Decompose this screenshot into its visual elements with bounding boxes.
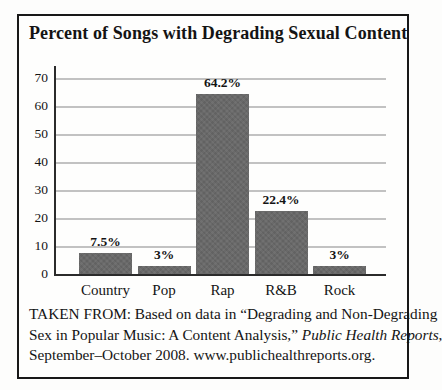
y-axis-tick-labels: 010203040506070	[19, 66, 48, 276]
figure-frame: Percent of Songs with Degrading Sexual C…	[17, 14, 409, 379]
source-note-italic-text: Public Health Reports	[302, 326, 439, 343]
bar	[79, 253, 132, 274]
source-note-text: September–October 2008. www.publichealth…	[29, 346, 375, 363]
bar	[138, 266, 191, 274]
bar-value-label: 22.4%	[262, 192, 299, 208]
category-label: Country	[81, 282, 130, 299]
bar-slot: 3%Pop	[137, 66, 191, 274]
category-label: R&B	[265, 282, 297, 299]
y-tick-label: 20	[19, 209, 48, 227]
y-tick-label: 40	[19, 153, 48, 171]
bar-slot: 3%Rock	[313, 66, 367, 274]
bar	[196, 94, 249, 274]
bar	[255, 211, 308, 274]
bar-value-label: 64.2%	[204, 75, 241, 91]
category-label: Pop	[152, 282, 175, 299]
bars-row: 7.5%Country3%Pop64.2%Rap22.4%R&B3%Rock	[56, 66, 386, 274]
source-note-line: Sex in Popular Music: A Content Analysis…	[29, 325, 405, 346]
source-note-text: Sex in Popular Music: A Content Analysis…	[29, 326, 302, 343]
bar-chart: 010203040506070 7.5%Country3%Pop64.2%Rap…	[19, 66, 407, 311]
bar-slot: 7.5%Country	[79, 66, 133, 274]
bar-value-label: 3%	[154, 247, 174, 263]
category-label: Rap	[210, 282, 234, 299]
bar	[313, 266, 366, 274]
source-note-text: ,	[439, 326, 442, 343]
bar-value-label: 7.5%	[90, 234, 120, 250]
y-tick-label: 60	[19, 97, 48, 115]
y-tick-label: 30	[19, 181, 48, 199]
chart-title: Percent of Songs with Degrading Sexual C…	[29, 23, 407, 44]
source-note-text: TAKEN FROM: Based on data in “Degrading …	[29, 305, 437, 322]
source-note: TAKEN FROM: Based on data in “Degrading …	[29, 304, 405, 366]
y-tick-label: 50	[19, 125, 48, 143]
y-tick-label: 10	[19, 237, 48, 255]
plot-area: 7.5%Country3%Pop64.2%Rap22.4%R&B3%Rock	[54, 66, 386, 276]
source-note-line: TAKEN FROM: Based on data in “Degrading …	[29, 304, 405, 325]
bar-slot: 22.4%R&B	[254, 66, 308, 274]
bar-slot: 64.2%Rap	[196, 66, 250, 274]
y-tick-label: 70	[19, 69, 48, 87]
y-tick-label: 0	[19, 265, 48, 283]
bar-value-label: 3%	[329, 247, 349, 263]
source-note-line: September–October 2008. www.publichealth…	[29, 345, 405, 366]
category-label: Rock	[324, 282, 356, 299]
